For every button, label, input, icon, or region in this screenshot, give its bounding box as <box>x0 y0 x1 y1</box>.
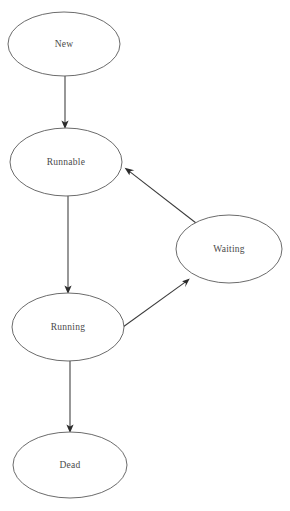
node-layer: New Runnable Waiting Running Dead <box>8 12 282 498</box>
state-node-runnable[interactable]: Runnable <box>10 128 122 196</box>
state-node-runnable-label: Runnable <box>47 157 85 167</box>
state-node-running-label: Running <box>51 322 85 332</box>
edge-running-to-waiting-line <box>123 282 185 327</box>
state-node-running[interactable]: Running <box>12 293 124 361</box>
state-node-waiting[interactable]: Waiting <box>176 215 282 283</box>
edge-waiting-to-runnable <box>125 168 196 223</box>
state-node-new[interactable]: New <box>8 12 120 76</box>
edge-waiting-to-runnable-line <box>129 171 196 223</box>
edge-running-to-dead <box>66 361 73 433</box>
edge-running-to-waiting <box>123 279 190 327</box>
state-node-dead[interactable]: Dead <box>13 432 127 498</box>
state-node-waiting-label: Waiting <box>213 244 245 254</box>
state-node-dead-label: Dead <box>59 460 80 470</box>
state-node-new-label: New <box>55 39 74 49</box>
state-diagram-svg: New Runnable Waiting Running Dead <box>0 0 290 511</box>
edge-runnable-to-running <box>64 196 71 294</box>
edge-new-to-runnable <box>61 76 68 129</box>
state-diagram-canvas: New Runnable Waiting Running Dead <box>0 0 290 511</box>
